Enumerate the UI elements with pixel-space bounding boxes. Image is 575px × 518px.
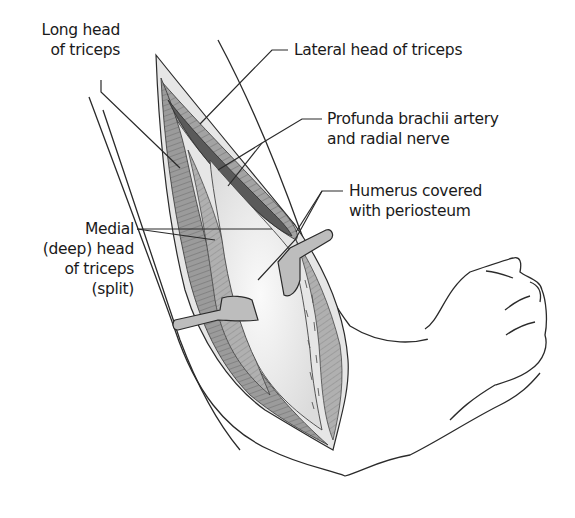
label-medial-head-line3: of triceps bbox=[20, 259, 134, 279]
label-profunda-line1: Profunda brachii artery bbox=[327, 109, 499, 129]
label-lateral-head: Lateral head of triceps bbox=[294, 40, 462, 60]
label-humerus: Humerus covered with periosteum bbox=[349, 181, 482, 221]
label-humerus-line2: with periosteum bbox=[349, 201, 482, 221]
label-humerus-line1: Humerus covered bbox=[349, 181, 482, 201]
leader-lateral-head bbox=[200, 50, 288, 124]
fist-illustration bbox=[425, 258, 546, 420]
label-profunda-line2: and radial nerve bbox=[327, 129, 499, 149]
incision-exposure bbox=[156, 55, 348, 450]
label-medial-head-line2: (deep) head bbox=[20, 239, 134, 259]
label-profunda: Profunda brachii artery and radial nerve bbox=[327, 109, 499, 149]
label-medial-head-line1: Medial bbox=[20, 219, 134, 239]
label-long-head: Long head of triceps bbox=[20, 20, 120, 60]
label-long-head-line1: Long head bbox=[20, 20, 120, 40]
label-medial-head-line4: (split) bbox=[20, 279, 134, 299]
label-lateral-head-line1: Lateral head of triceps bbox=[294, 40, 462, 60]
label-medial-head: Medial (deep) head of triceps (split) bbox=[20, 219, 134, 299]
label-long-head-line2: of triceps bbox=[20, 40, 120, 60]
